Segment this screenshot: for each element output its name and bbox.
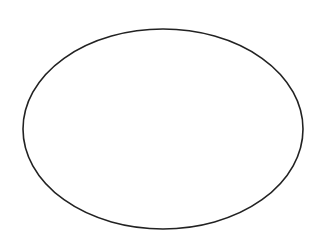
diagram-svg (0, 0, 323, 244)
diagram-canvas (0, 0, 323, 244)
ellipse-shape (23, 29, 303, 229)
